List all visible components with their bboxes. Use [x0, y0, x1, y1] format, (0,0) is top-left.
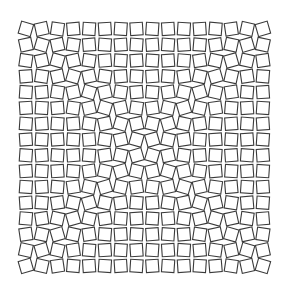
square-tile — [19, 70, 33, 84]
square-tile — [240, 69, 254, 83]
square-tile — [114, 228, 127, 241]
square-tile — [145, 164, 160, 179]
square-tile — [255, 21, 270, 36]
square-tile — [98, 243, 111, 256]
square-tile — [224, 227, 239, 242]
square-tile — [114, 259, 127, 272]
square-tile — [113, 179, 128, 194]
square-tile — [82, 211, 97, 226]
square-tile — [256, 85, 269, 98]
square-tile — [98, 228, 112, 242]
square-tile — [66, 38, 80, 52]
square-tile — [19, 227, 33, 241]
square-tile — [256, 53, 270, 67]
square-tile — [129, 180, 143, 194]
square-tile — [66, 211, 81, 226]
square-tile — [18, 37, 33, 52]
square-tile — [208, 69, 223, 84]
square-tile — [256, 180, 269, 193]
square-tile — [98, 132, 112, 146]
square-tile — [208, 85, 223, 100]
square-tile — [34, 53, 49, 68]
square-tile — [97, 195, 112, 210]
square-tile — [177, 259, 190, 272]
square-tile — [34, 242, 49, 257]
square-tile — [161, 259, 174, 272]
square-tile — [192, 84, 207, 99]
square-tile — [146, 54, 159, 67]
square-tile — [66, 101, 80, 115]
square-tile — [193, 243, 207, 257]
square-tile — [130, 85, 144, 99]
square-tile — [225, 133, 238, 146]
square-tile — [130, 259, 143, 272]
square-tile — [161, 70, 175, 84]
square-tile — [82, 164, 96, 178]
square-tile — [224, 211, 239, 226]
square-tile — [114, 22, 127, 35]
square-tile — [82, 259, 95, 272]
square-tile — [208, 227, 223, 242]
square-tile — [82, 38, 96, 52]
square-tile — [82, 100, 97, 115]
square-tile — [177, 132, 191, 146]
square-tile — [208, 38, 222, 52]
square-tile — [129, 116, 144, 131]
square-tile — [18, 243, 33, 258]
square-tile — [130, 70, 143, 83]
square-tile — [240, 85, 254, 99]
square-tile — [114, 243, 127, 256]
square-tile — [34, 227, 49, 242]
square-tile — [19, 149, 32, 162]
square-tile — [19, 164, 32, 177]
square-tile — [161, 179, 176, 194]
square-tile — [177, 69, 191, 83]
square-tile — [177, 22, 190, 35]
square-tile — [97, 179, 112, 194]
square-tile — [256, 196, 269, 209]
square-tile — [114, 54, 127, 67]
square-tile — [146, 38, 159, 51]
square-tile — [81, 84, 96, 99]
square-tile — [130, 38, 143, 51]
square-tile — [97, 116, 112, 131]
square-tile — [177, 228, 191, 242]
square-tile — [19, 117, 32, 130]
square-tile — [82, 117, 96, 131]
square-tile — [130, 228, 143, 241]
square-tile — [177, 211, 191, 225]
square-tile — [224, 22, 238, 36]
square-tile — [208, 211, 223, 226]
square-tile — [35, 133, 48, 146]
square-tile — [176, 116, 191, 131]
square-tile — [176, 85, 191, 100]
square-tile — [208, 180, 222, 194]
square-tile — [161, 85, 175, 99]
square-tile — [145, 180, 159, 194]
square-tile — [225, 117, 238, 130]
square-tile — [97, 85, 112, 100]
square-tile — [130, 22, 143, 35]
square-tile — [98, 148, 112, 162]
square-tile — [66, 227, 81, 242]
square-tile — [129, 101, 143, 115]
square-tile — [98, 54, 112, 68]
square-tile — [145, 148, 160, 163]
square-tile — [193, 149, 207, 163]
square-tile — [160, 116, 175, 131]
square-tile — [82, 133, 96, 147]
square-tile — [129, 164, 144, 179]
square-tile — [97, 100, 112, 115]
square-tile — [209, 22, 223, 36]
square-tile — [176, 100, 191, 115]
square-tile — [240, 196, 254, 210]
square-tile — [82, 243, 96, 257]
square-tile — [161, 243, 174, 256]
square-tile — [114, 70, 128, 84]
square-tile — [255, 243, 270, 258]
square-tile — [240, 53, 255, 68]
square-tile — [256, 227, 270, 241]
square-tile — [177, 38, 190, 51]
square-tile — [161, 54, 174, 67]
square-tile — [209, 149, 222, 162]
